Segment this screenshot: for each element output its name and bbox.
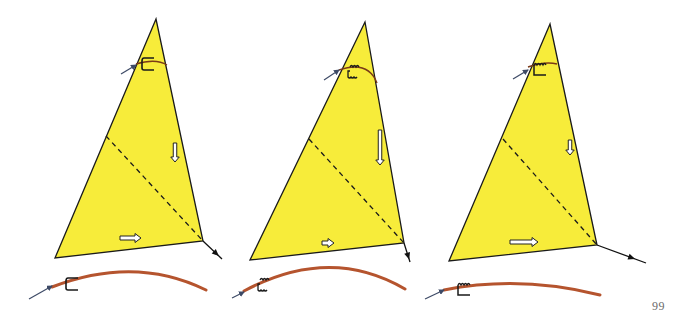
foot-inflow-arrow-icon (425, 290, 444, 299)
sail-group (29, 19, 222, 299)
sail-shape (449, 24, 597, 261)
foot-inflow-arrow-icon (29, 286, 52, 299)
wind-inflow-arrow-icon (324, 70, 339, 80)
foot-section-curve (52, 272, 206, 290)
clew-outflow-arrow-icon (203, 241, 222, 259)
clew-arrowhead-icon (404, 252, 412, 260)
sail-shape (55, 19, 203, 258)
sail-trim-diagram (0, 0, 680, 326)
clew-outflow-arrow-icon (597, 245, 646, 263)
clew-arrowhead-icon (627, 254, 636, 262)
sail-group (425, 24, 646, 299)
foot-inflow-arrow-icon (232, 292, 244, 298)
page-number: 99 (652, 299, 665, 314)
wind-inflow-arrow-icon (513, 70, 528, 79)
sail-group (232, 22, 412, 298)
